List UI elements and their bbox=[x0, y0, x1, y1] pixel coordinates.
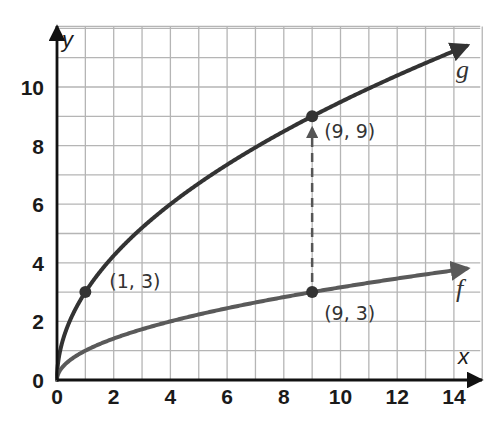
function-label-f: f bbox=[456, 274, 467, 303]
point-label: (1, 3) bbox=[109, 270, 160, 292]
x-tick-label: 0 bbox=[51, 385, 63, 408]
y-tick-label: 2 bbox=[32, 310, 44, 333]
point-marker bbox=[306, 110, 318, 122]
tick-labels: 024681012140246810 bbox=[21, 76, 466, 408]
y-tick-label: 8 bbox=[32, 135, 44, 158]
y-tick-label: 4 bbox=[32, 252, 44, 275]
y-tick-label: 10 bbox=[21, 76, 44, 99]
x-tick-label: 14 bbox=[442, 385, 466, 408]
x-tick-label: 12 bbox=[386, 385, 409, 408]
point-label: (9, 9) bbox=[324, 120, 375, 142]
curve-g bbox=[57, 46, 467, 380]
x-axis-label: x bbox=[457, 344, 470, 369]
x-tick-label: 10 bbox=[329, 385, 352, 408]
y-axis-label: y bbox=[60, 27, 75, 52]
axes: xy bbox=[57, 26, 482, 380]
function-curves: gf bbox=[57, 46, 469, 380]
square-root-graph: gf xy 024681012140246810 (1, 3)(9, 9)(9,… bbox=[0, 0, 498, 432]
x-tick-label: 8 bbox=[278, 385, 290, 408]
point-label: (9, 3) bbox=[324, 302, 375, 324]
y-tick-label: 0 bbox=[32, 369, 44, 392]
x-tick-label: 6 bbox=[221, 385, 233, 408]
grid-lines bbox=[57, 26, 482, 380]
x-tick-label: 2 bbox=[108, 385, 120, 408]
point-marker bbox=[79, 286, 91, 298]
x-tick-label: 4 bbox=[165, 385, 177, 408]
function-label-g: g bbox=[456, 55, 469, 84]
point-marker bbox=[306, 286, 318, 298]
y-tick-label: 6 bbox=[32, 193, 44, 216]
